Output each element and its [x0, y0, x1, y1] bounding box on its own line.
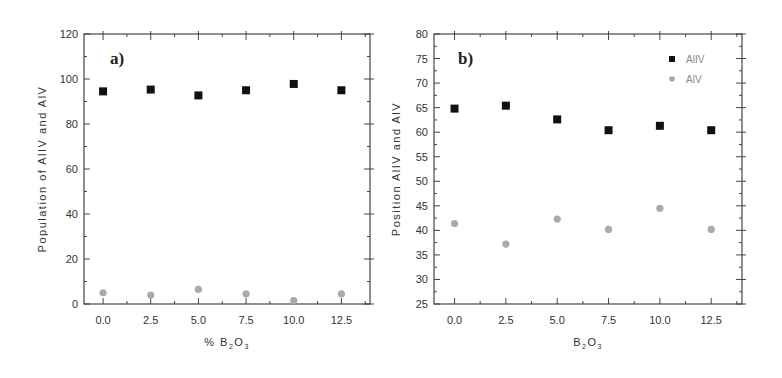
x-tick-label: 10.0 — [283, 314, 304, 326]
legend-marker-circle — [669, 76, 675, 82]
y-tick-label: 45 — [416, 200, 428, 212]
data-point-circle — [99, 289, 106, 296]
data-point-circle — [147, 291, 154, 298]
data-point-circle — [708, 226, 715, 233]
x-axis-label: % B2O3 — [204, 336, 250, 350]
data-point-square — [553, 115, 561, 123]
y-tick-label: 60 — [66, 163, 78, 175]
legend-marker-square — [669, 56, 675, 62]
data-point-circle — [554, 215, 561, 222]
y-tick-label: 40 — [66, 208, 78, 220]
y-tick-label: 25 — [416, 298, 428, 310]
data-point-square — [242, 86, 250, 94]
y-tick-label: 100 — [60, 73, 78, 85]
x-tick-label: 7.5 — [238, 314, 253, 326]
data-point-square — [605, 126, 613, 134]
data-point-square — [451, 105, 459, 113]
x-tick-label: 0.0 — [95, 314, 110, 326]
chart-panel-a: 0204060801001200.02.55.07.510.012.5% B2O… — [36, 28, 374, 350]
x-tick-label: 10.0 — [649, 314, 670, 326]
data-point-circle — [502, 241, 509, 248]
legend-label: AlV — [686, 74, 702, 85]
data-point-circle — [290, 297, 297, 304]
plot-frame — [84, 34, 370, 304]
y-tick-label: 55 — [416, 151, 428, 163]
y-tick-label: 80 — [66, 118, 78, 130]
y-tick-label: 65 — [416, 102, 428, 114]
chart-panel-b: 2530354045505560657075800.02.55.07.510.0… — [390, 28, 746, 350]
panel-label: b) — [458, 49, 473, 68]
data-point-circle — [656, 205, 663, 212]
x-axis-label: B2O3 — [573, 336, 603, 350]
y-tick-label: 30 — [416, 273, 428, 285]
data-point-circle — [451, 220, 458, 227]
y-axis-label: Position AlIV and AlV — [390, 102, 402, 236]
data-point-circle — [338, 290, 345, 297]
data-point-square — [656, 122, 664, 130]
y-tick-label: 75 — [416, 53, 428, 65]
y-tick-label: 35 — [416, 249, 428, 261]
x-tick-label: 12.5 — [331, 314, 352, 326]
legend-label: AlIV — [686, 54, 705, 65]
data-point-square — [194, 91, 202, 99]
x-tick-label: 0.0 — [447, 314, 462, 326]
y-tick-label: 70 — [416, 77, 428, 89]
data-point-square — [337, 86, 345, 94]
x-tick-label: 2.5 — [143, 314, 158, 326]
x-tick-label: 5.0 — [550, 314, 565, 326]
data-point-circle — [242, 290, 249, 297]
y-tick-label: 60 — [416, 126, 428, 138]
data-point-square — [290, 80, 298, 88]
panel-label: a) — [110, 49, 124, 68]
data-point-square — [147, 86, 155, 94]
data-point-square — [99, 87, 107, 95]
y-tick-label: 40 — [416, 224, 428, 236]
data-point-square — [502, 102, 510, 110]
x-tick-label: 12.5 — [700, 314, 721, 326]
data-point-square — [707, 126, 715, 134]
y-tick-label: 20 — [66, 253, 78, 265]
y-axis-label: Population of AlIV and AlV — [36, 86, 48, 253]
y-tick-label: 120 — [60, 28, 78, 40]
y-tick-label: 0 — [72, 298, 78, 310]
y-tick-label: 50 — [416, 175, 428, 187]
figure: 0204060801001200.02.55.07.510.012.5% B2O… — [0, 0, 782, 378]
y-tick-label: 80 — [416, 28, 428, 40]
x-tick-label: 7.5 — [601, 314, 616, 326]
data-point-circle — [195, 286, 202, 293]
x-tick-label: 2.5 — [498, 314, 513, 326]
data-point-circle — [605, 226, 612, 233]
x-tick-label: 5.0 — [191, 314, 206, 326]
